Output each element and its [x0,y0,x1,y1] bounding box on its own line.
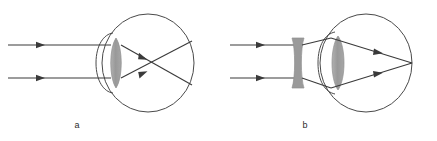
figure-root: a [0,0,437,141]
figure-background [0,0,437,141]
eye-optics-diagram: a [0,0,437,141]
crystalline-lens-a [111,38,122,88]
panel-caption-b: b [302,120,307,130]
panel-caption-a: a [74,120,79,130]
